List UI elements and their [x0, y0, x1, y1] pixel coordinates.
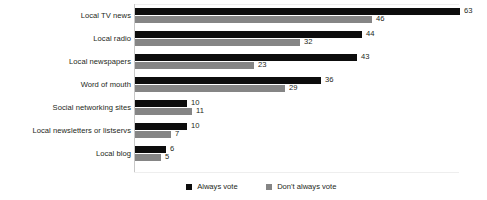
bar-dont-always-vote[interactable] — [135, 85, 285, 92]
legend-swatch-icon — [266, 184, 272, 190]
bar-value-dont-always-vote: 7 — [175, 130, 179, 138]
bar-value-dont-always-vote: 29 — [289, 84, 298, 92]
bar-value-always-vote: 63 — [464, 7, 473, 15]
bar-always-vote[interactable] — [135, 100, 187, 107]
bar-always-vote[interactable] — [135, 8, 460, 15]
bar-dont-always-vote[interactable] — [135, 108, 192, 115]
bar-value-always-vote: 10 — [191, 122, 200, 130]
bar-value-dont-always-vote: 46 — [376, 15, 385, 23]
bar-value-always-vote: 43 — [361, 53, 370, 61]
bar-value-always-vote: 6 — [170, 145, 174, 153]
legend-label: Always vote — [197, 181, 238, 193]
bar-dont-always-vote[interactable] — [135, 131, 171, 138]
chart-row: Social networking sites 10 11 — [0, 96, 487, 119]
bar-dont-always-vote[interactable] — [135, 62, 254, 69]
bar-value-dont-always-vote: 5 — [165, 153, 169, 161]
bar-always-vote[interactable] — [135, 31, 362, 38]
bar-dont-always-vote[interactable] — [135, 154, 161, 161]
category-label: Word of mouth — [3, 73, 131, 96]
bar-always-vote[interactable] — [135, 123, 187, 130]
category-label: Local newsletters or listservs — [3, 119, 131, 142]
bar-value-always-vote: 44 — [366, 30, 375, 38]
bar-value-always-vote: 36 — [325, 76, 334, 84]
chart-legend: Always vote Don't always vote — [0, 181, 487, 195]
chart-row: Local radio 44 32 — [0, 27, 487, 50]
category-label: Local TV news — [3, 4, 131, 27]
chart-row: Local newspapers 43 23 — [0, 50, 487, 73]
bar-always-vote[interactable] — [135, 146, 166, 153]
bar-dont-always-vote[interactable] — [135, 39, 300, 46]
category-label: Local radio — [3, 27, 131, 50]
legend-label: Don't always vote — [277, 181, 336, 193]
legend-swatch-icon — [186, 184, 192, 190]
chart-row: Local newsletters or listservs 10 7 — [0, 119, 487, 142]
bar-chart: Local TV news 63 46 Local radio 44 32 Lo… — [0, 0, 487, 200]
bar-value-dont-always-vote: 32 — [304, 38, 313, 46]
legend-item-always-vote[interactable]: Always vote — [186, 181, 238, 193]
chart-row: Local blog 6 5 — [0, 142, 487, 165]
plot-bottom-rule — [134, 172, 459, 173]
bar-always-vote[interactable] — [135, 54, 357, 61]
chart-row: Word of mouth 36 29 — [0, 73, 487, 96]
category-label: Social networking sites — [3, 96, 131, 119]
legend-item-dont-always-vote[interactable]: Don't always vote — [266, 181, 336, 193]
category-label: Local newspapers — [3, 50, 131, 73]
category-label: Local blog — [3, 142, 131, 165]
chart-row: Local TV news 63 46 — [0, 4, 487, 27]
bar-value-dont-always-vote: 23 — [258, 61, 267, 69]
bar-dont-always-vote[interactable] — [135, 16, 372, 23]
bar-value-dont-always-vote: 11 — [196, 107, 204, 115]
